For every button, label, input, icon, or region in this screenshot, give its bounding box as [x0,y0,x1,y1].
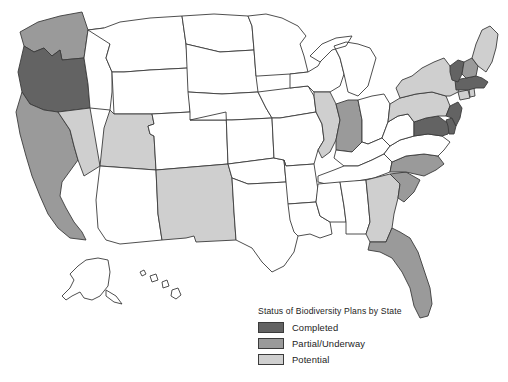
state-AL[interactable] [340,180,370,234]
state-CO[interactable] [148,112,228,170]
legend-title: Status of Biodiversity Plans by State [258,306,458,316]
legend-item-potential: Potential [258,353,458,366]
legend-item-completed: Completed [258,321,458,334]
states-layer [16,12,498,318]
legend-swatch-partial [258,338,284,349]
state-MO[interactable] [272,112,324,166]
legend-label-partial: Partial/Underway [292,338,365,349]
state-WY[interactable] [112,68,190,114]
state-UT[interactable] [100,110,156,170]
state-IN[interactable] [336,100,362,152]
legend-swatch-completed [258,322,284,333]
state-NE[interactable] [188,92,272,120]
biodiversity-plans-map-figure: Status of Biodiversity Plans by State Co… [0,0,508,382]
state-NM[interactable] [156,164,236,242]
legend-label-completed: Completed [292,322,338,333]
state-AZ[interactable] [96,166,162,244]
legend-label-potential: Potential [292,354,329,365]
state-AR[interactable] [284,160,318,204]
state-MN[interactable] [248,14,308,76]
state-HI[interactable] [140,270,181,299]
state-SD[interactable] [186,44,258,94]
state-AK[interactable] [62,258,122,304]
legend-item-partial: Partial/Underway [258,337,458,350]
state-CT[interactable] [458,90,470,100]
map-legend: Status of Biodiversity Plans by State Co… [258,306,458,369]
legend-swatch-potential [258,354,284,365]
